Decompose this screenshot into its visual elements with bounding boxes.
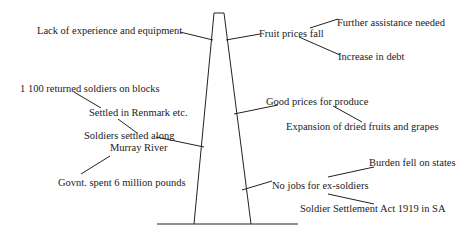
pole-left-edge [194,13,214,224]
connector-fruit-prices [226,34,260,40]
label-govt-spent: Govnt. spent 6 million pounds [58,177,185,189]
label-expansion-dried: Expansion of dried fruits and grapes [286,121,439,133]
label-no-jobs: No jobs for ex-soldiers [272,180,369,192]
connector-burden [328,167,374,177]
connector-further-assistance [310,19,338,28]
right-connectors [226,19,374,204]
pole-right-edge [224,13,251,224]
connector-govt-spent [81,156,110,174]
label-good-prices: Good prices for produce [266,96,368,108]
label-settled-renmark: Settled in Renmark etc. [89,107,188,119]
connector-lack-experience [180,32,213,40]
label-lack-experience: Lack of experience and equipment [37,25,182,37]
label-murray-line2: Murray River [110,142,167,154]
label-settlement-act: Soldier Settlement Act 1919 in SA [300,203,446,215]
label-fruit-prices-fall: Fruit prices fall [259,28,324,40]
label-returned-soldiers: 1 100 returned soldiers on blocks [20,83,160,95]
label-murray-line1: Soldiers settled along [84,130,174,142]
label-further-assistance: Further assistance needed [337,17,445,29]
label-increase-debt: Increase in debt [338,51,404,63]
connector-expansion [333,106,362,122]
label-burden-states: Burden fell on states [369,157,456,169]
